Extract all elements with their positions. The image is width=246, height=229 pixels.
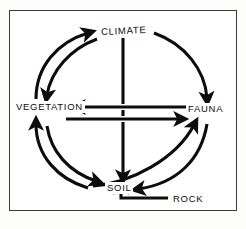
diagram-screenshot: CLIMATE VEGETATION FAUNA SOIL ROCK xyxy=(0,0,246,229)
arrow-soil-to-vegetation xyxy=(36,124,88,188)
node-label-soil: SOIL xyxy=(105,182,133,194)
node-label-rock: ROCK xyxy=(171,193,205,205)
arrow-soil-to-fauna xyxy=(93,125,194,186)
node-label-vegetation: VEGETATION xyxy=(14,101,85,113)
arrow-climate-to-vegetation xyxy=(47,39,97,95)
node-label-fauna: FAUNA xyxy=(186,103,225,115)
node-label-climate: CLIMATE xyxy=(99,24,149,38)
arrow-climate-to-fauna xyxy=(154,33,207,98)
arrow-fauna-to-soil xyxy=(139,124,207,189)
arrow-vegetation-to-soil xyxy=(47,126,96,181)
arrow-vegetation-to-climate xyxy=(36,33,88,99)
